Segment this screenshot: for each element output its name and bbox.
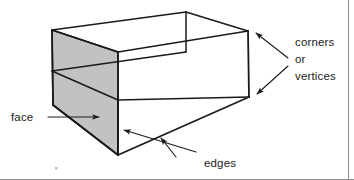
edges-leader-arrow-bottom — [161, 138, 176, 157]
label-face: face — [11, 111, 33, 123]
label-or: or — [295, 53, 306, 65]
corners-leader-arrow-bottom — [257, 66, 288, 94]
label-corners: corners — [295, 36, 334, 48]
edges-leader-arrow-vertical — [124, 130, 196, 152]
diagram-container: face edges corners or vertices — [0, 0, 354, 180]
edge-top-left-to-rear — [52, 12, 186, 30]
edge-left-vertical — [52, 30, 53, 105]
edge-top-rear-to-right — [186, 12, 248, 31]
corners-leader-arrow-top — [256, 33, 288, 58]
edge-vertical-right — [248, 31, 249, 97]
edge-bottom-front-right — [118, 97, 249, 155]
label-vertices: vertices — [295, 70, 336, 82]
edge-top-right-to-front-mid — [118, 31, 248, 52]
speck-artifact — [55, 167, 58, 170]
edge-inner-bottom-back — [118, 97, 249, 100]
label-edges: edges — [204, 157, 236, 169]
prism-diagram-svg: face edges corners or vertices — [0, 0, 354, 180]
